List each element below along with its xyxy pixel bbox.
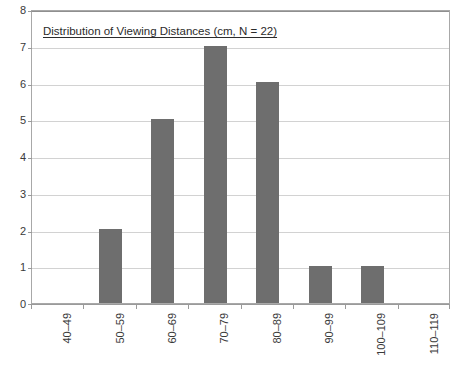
x-tick-label: 60–69 (167, 313, 178, 344)
x-tick-label: 80–89 (272, 313, 283, 344)
x-tick-mark (293, 304, 294, 309)
x-tick-mark (136, 304, 137, 309)
x-tick-label: 90–99 (324, 313, 335, 344)
x-tick-label: 70–79 (219, 313, 230, 344)
x-tick-mark (241, 304, 242, 309)
y-tick-label: 3 (0, 188, 26, 199)
y-tick-label: 1 (0, 262, 26, 273)
plot-area: Distribution of Viewing Distances (cm, N… (31, 10, 450, 304)
bar (151, 119, 174, 303)
x-tick-mark (188, 304, 189, 309)
bars-group (32, 11, 449, 303)
y-tick-label: 4 (0, 152, 26, 163)
x-tick-mark (345, 304, 346, 309)
x-tick-label: 110–119 (429, 313, 440, 354)
x-tick-label: 100–109 (376, 313, 387, 356)
x-tick-label: 40–49 (62, 313, 73, 344)
y-tick-label: 2 (0, 225, 26, 236)
bar (309, 266, 332, 303)
y-tick-label: 7 (0, 41, 26, 52)
bar (204, 46, 227, 303)
bar (361, 266, 384, 303)
y-tick-label: 8 (0, 5, 26, 16)
histogram-figure: 012345678 Distribution of Viewing Distan… (0, 0, 463, 370)
y-axis: 012345678 (0, 10, 26, 304)
bar (256, 82, 279, 303)
chart-title: Distribution of Viewing Distances (cm, N… (43, 24, 277, 38)
x-tick-mark (31, 304, 32, 309)
y-tick-label: 0 (0, 299, 26, 310)
x-tick-label: 50–59 (115, 313, 126, 344)
x-tick-mark (398, 304, 399, 309)
y-tick-label: 6 (0, 78, 26, 89)
x-tick-mark (83, 304, 84, 309)
x-tick-mark (449, 304, 450, 309)
bar (99, 229, 122, 303)
x-axis: 40–4950–5960–6970–7980–8990–99100–109110… (31, 304, 450, 370)
y-tick-label: 5 (0, 115, 26, 126)
